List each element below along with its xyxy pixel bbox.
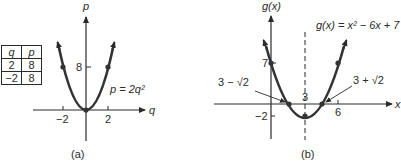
point-2-8 (105, 64, 110, 69)
x-axis-label: x (394, 98, 401, 110)
q-axis-label: q (149, 104, 156, 116)
equation-a: p = 2q² (109, 83, 145, 95)
x-tick-label-6: 6 (335, 106, 341, 118)
curve-arrow-right (343, 40, 347, 50)
caption-a: (a) (71, 148, 84, 160)
point-origin (83, 107, 88, 112)
figure-canvas: p q 8 −2 2 p = 2q² (a) g(x) x (0, 0, 401, 167)
panel-a-graph: p q 8 −2 2 p = 2q² (a) (33, 0, 156, 160)
p-axis-label: p (82, 0, 89, 12)
point-6-7 (335, 60, 340, 65)
root-right-label: 3 + √2 (353, 74, 384, 86)
x-tick-label-2: 2 (105, 113, 111, 125)
curve-arrow-left (264, 40, 268, 50)
point-y-intercept (268, 60, 273, 65)
x-tick-label-neg2: −2 (56, 113, 69, 125)
y-tick-label-neg2: −2 (255, 110, 268, 122)
curve-arrow-right (112, 42, 115, 51)
point-root-left (286, 101, 291, 106)
panel-b-graph: g(x) x 7 −2 3 6 g(x) = x² − 6x + 7 3 − √… (214, 0, 401, 160)
y-tick-label-7: 7 (262, 57, 268, 69)
caption-b: (b) (301, 148, 314, 160)
point-vertex (302, 113, 307, 118)
x-tick-label-3: 3 (302, 91, 308, 103)
g-axis-label: g(x) (262, 0, 281, 12)
equation-b: g(x) = x² − 6x + 7 (316, 19, 400, 31)
point-neg2-8 (60, 64, 65, 69)
y-tick-label-8: 8 (76, 61, 82, 73)
root-left-label: 3 − √2 (218, 76, 249, 88)
curve-arrow-left (58, 42, 61, 51)
point-root-right (319, 101, 324, 106)
